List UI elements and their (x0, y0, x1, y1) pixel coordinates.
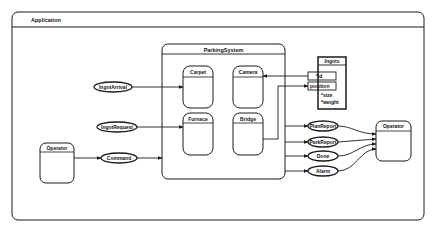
svg-text:IngotArrival: IngotArrival (99, 84, 128, 90)
svg-text:Carpet: Carpet (190, 69, 206, 75)
svg-text:*size: *size (321, 92, 333, 98)
message-plan-report[interactable]: PlanReport (308, 121, 338, 131)
parking-system-title: ParkingSystem (204, 47, 244, 53)
svg-text:Bridge: Bridge (240, 116, 256, 122)
svg-text:Ingots: Ingots (325, 58, 340, 64)
operator-left[interactable]: Operator (40, 143, 74, 183)
svg-text:PlanReport: PlanReport (310, 123, 337, 129)
application-diagram: Application ParkingSystem Carpet Camera … (0, 0, 435, 231)
component-bridge[interactable]: Bridge (233, 113, 263, 155)
svg-text:Operator: Operator (383, 123, 404, 129)
arrow-parkreport-operator (338, 139, 376, 142)
svg-text:*weight: *weight (321, 99, 339, 105)
svg-text:position: position (310, 83, 329, 89)
parking-system[interactable]: ParkingSystem (162, 44, 285, 179)
arrow-planreport-operator (338, 126, 376, 134)
svg-text:Done: Done (317, 153, 330, 159)
component-camera[interactable]: Camera (233, 66, 263, 108)
svg-text:Operator: Operator (46, 145, 67, 151)
message-ingot-arrival[interactable]: IngotArrival (94, 82, 132, 92)
message-park-report[interactable]: ParkReport (308, 137, 338, 147)
svg-text:Camera: Camera (239, 69, 258, 75)
svg-text:Furnace: Furnace (188, 116, 208, 122)
component-carpet[interactable]: Carpet (183, 66, 213, 108)
svg-text:Alarm: Alarm (316, 168, 331, 174)
svg-text:IngotRequest: IngotRequest (101, 124, 133, 130)
component-furnace[interactable]: Furnace (183, 113, 213, 155)
frame-title: Application (31, 17, 62, 23)
svg-text:*id: *id (316, 73, 322, 79)
ingots-store[interactable]: Ingots *id position *size *weight (308, 57, 346, 109)
operator-right[interactable]: Operator (376, 121, 411, 161)
message-done[interactable]: Done (308, 151, 338, 161)
message-alarm[interactable]: Alarm (308, 166, 338, 176)
message-ingot-request[interactable]: IngotRequest (97, 122, 137, 132)
application-frame: Application (12, 12, 424, 220)
message-command[interactable]: Command (101, 153, 137, 163)
svg-text:ParkReport: ParkReport (310, 139, 337, 145)
arrow-alarm-operator (338, 149, 376, 171)
svg-text:Command: Command (107, 155, 131, 161)
